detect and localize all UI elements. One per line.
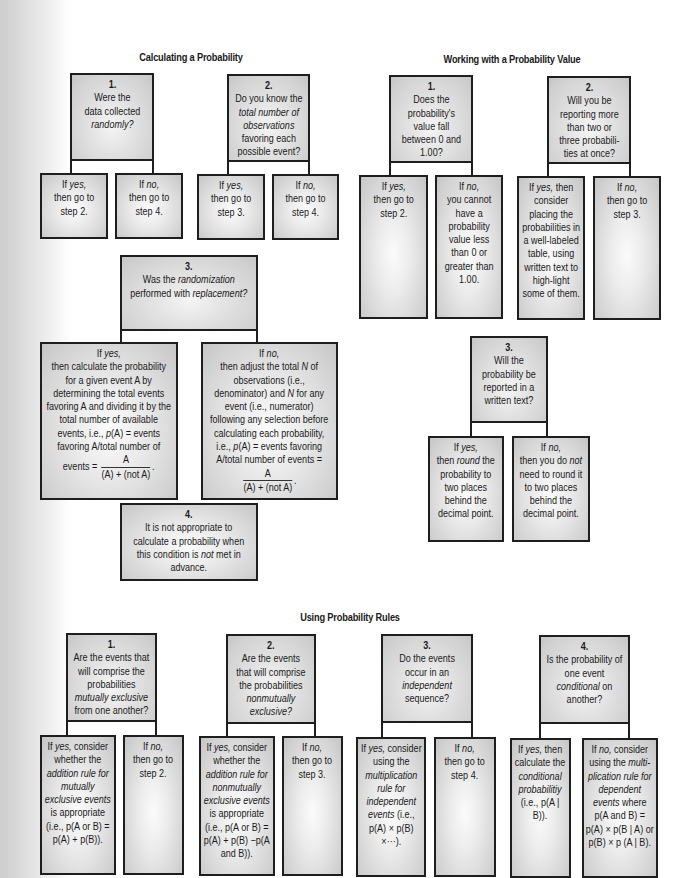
work-step2-question: 2. Will you be reporting more than two o… [547,76,631,164]
answer-text: . [152,460,155,472]
answer-emphasis: round [457,454,480,466]
question-text: Do you know the [229,92,308,105]
answer-text: step 4. [117,205,181,218]
question-text: performed with [131,287,193,299]
rules-step2-question: 2. Are the events that will comprise the… [226,634,316,724]
fraction-denominator: (A) + (not A) [244,481,293,494]
question-text: Are the events that will comprise the pr… [236,652,305,691]
answer-no: no, [599,743,612,755]
answer-text: step 2. [125,767,182,780]
answer-text: then adjust the total [221,360,302,372]
answer-text: then go to [361,193,426,206]
step-number: 2. [549,81,629,94]
rules-step4-yes: If yes, then calculate the conditional p… [510,738,571,878]
answer-text: step 3. [199,206,263,219]
connector-line [470,422,472,437]
question-text-emphasis: conditional [557,680,600,692]
answer-no: no, [548,441,561,453]
rules-step3-yes: If yes, consider using the multiplicatio… [356,737,426,877]
answer-text: then go to [595,194,659,207]
rule-name: addition rule for nonmutually exclusive … [204,768,270,807]
answer-no: no, [267,347,280,359]
answer-yes: yes, [69,178,86,190]
answer-yes: yes, [226,179,243,191]
answer-text: If [139,178,147,190]
rules-step2-no: If no, then go to step 3. [282,736,343,876]
answer-no: no, [146,178,159,190]
calc-step1-yes: If yes, then go to step 2. [40,173,108,239]
work-step3-no: If no, then you do not need to round it … [512,436,590,542]
answer-text: then go to [42,191,106,204]
answer-no: no, [151,740,164,752]
connector-line [628,723,630,739]
step-number: 3. [122,260,256,273]
question-text: between 0 and [391,133,471,146]
connector-line [227,161,229,175]
calc-step1-question: 1. Were the data collected randomly? [70,73,154,161]
answer-yes: yes, [55,740,72,752]
work-step1-yes: If yes, then go to step 2. [359,175,428,319]
section-title-calculating: Calculating a Probability [137,51,244,63]
question-text-emphasis: nonmutually exclusive? [247,692,296,717]
question-text-emphasis: randomization [178,273,235,285]
answer-text: then consider placing the probabilities … [522,181,580,299]
step-number: 4. [546,640,622,653]
question-text: data collected [72,105,152,118]
calc-step2-yes: If yes, then go to step 3. [197,174,265,240]
answer-text: If [62,178,70,190]
connector-line [546,422,548,437]
answer-yes: yes, [461,441,478,453]
question-text-emphasis: total number of [229,106,308,119]
rules-step1-question: 1. Are the events that will comprise the… [66,633,157,722]
step-number: 1. [71,638,153,651]
connector-line [547,163,549,177]
answer-no: no, [466,180,479,192]
answer-text: If [617,181,625,193]
question-text-emphasis: observations [229,119,308,132]
answer-text: step 3. [595,208,659,221]
step-number: 2. [233,639,308,652]
rules-step3-question: 3. Do the events occur in an independent… [381,634,473,723]
calc-step2-question: 2. Do you know the total number of obser… [227,74,310,162]
connector-line [389,162,391,176]
rule-name: addition rule for mutually exclusive eve… [45,767,111,806]
answer-text: then go to [436,755,494,768]
question-text-emphasis: mutually exclusive [75,691,148,703]
work-step2-no: If no, then go to step 3. [593,176,661,320]
section-title-rules: Using Probability Rules [297,611,403,623]
step-number: 3. [472,341,546,354]
answer-no: no, [462,742,475,754]
question-text: three probabili- [549,134,629,147]
question-text: from one another? [75,704,149,716]
connector-line [308,161,310,175]
answer-text: then go to [274,192,337,205]
connector-line [155,721,157,736]
connector-line [70,160,72,174]
answer-text: step 4. [274,206,337,219]
answer-text: then go to [284,754,341,767]
answer-text: . [294,473,297,485]
question-text: possible event? [229,145,308,158]
rules-step3-no: If no, then go to step 4. [434,737,496,877]
step-number: 1. [391,80,471,93]
question-text: probability's [391,107,471,120]
question-text: Is the probability of one event [547,653,623,678]
fraction-denominator: (A) + (not A) [102,468,151,481]
question-text: value fall [391,120,471,133]
answer-text: step 2. [361,207,426,220]
question-text: Do the events occur in an [399,652,455,677]
question-text: Does the [391,93,471,106]
connector-line [471,722,473,738]
answer-text: If [541,441,549,453]
question-text-emphasis: replacement? [193,287,248,299]
answer-emphasis: not [570,454,583,466]
rules-step4-question: 4. Is the probability of one event condi… [539,635,630,724]
answer-no: no, [303,179,316,191]
fraction-numerator: A [244,467,293,481]
answer-yes: yes, [389,180,406,192]
answer-yes: yes, [526,743,543,755]
connector-line [314,722,316,737]
question-text: Will you be [549,94,629,107]
question-text: sequence? [405,692,449,704]
answer-text: If [459,180,467,192]
